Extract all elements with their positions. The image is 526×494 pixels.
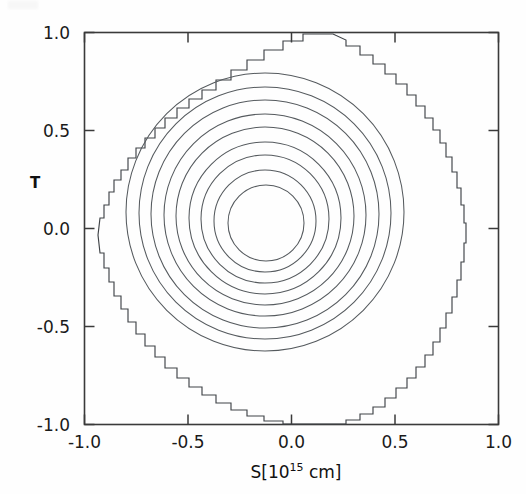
- contour-ring-6: [164, 114, 366, 316]
- y-tick-labels: 1.0 0.5 0.0 -0.5 -1.0: [37, 23, 70, 435]
- contour-ring-4: [189, 142, 341, 294]
- contour-lines: [98, 34, 466, 424]
- x-tick-label-0: -1.0: [68, 432, 101, 452]
- y-axis-ticks: [85, 33, 499, 425]
- x-tick-label-4: 1.0: [485, 432, 512, 452]
- contour-ring-5: [176, 127, 354, 305]
- contour-ring-1: [228, 185, 304, 261]
- x-tick-label-1: -0.5: [171, 432, 204, 452]
- contour-ring-3: [201, 155, 329, 283]
- y-tick-label-0: 1.0: [43, 23, 70, 43]
- plot-frame: [85, 33, 499, 425]
- x-axis-title-prefix: S[10: [250, 462, 289, 482]
- figure-page: 1.0 0.5 0.0 -0.5 -1.0 -1.0 -0.5 0.0 0.5 …: [0, 0, 526, 494]
- y-tick-label-3: -0.5: [37, 317, 70, 337]
- x-tick-label-3: 0.5: [381, 432, 408, 452]
- x-tick-label-2: 0.0: [278, 432, 305, 452]
- y-tick-label-2: 0.0: [43, 219, 70, 239]
- contour-plot: 1.0 0.5 0.0 -0.5 -1.0 -1.0 -0.5 0.0 0.5 …: [0, 0, 526, 494]
- contour-ring-8: [139, 87, 391, 339]
- y-tick-label-4: -1.0: [37, 415, 70, 435]
- x-axis-title: S[1015 cm]: [250, 461, 341, 482]
- contour-outer-jagged: [98, 34, 466, 424]
- x-axis-title-exponent: 15: [290, 461, 304, 474]
- contour-ring-9: [126, 73, 404, 351]
- x-axis-ticks: [85, 33, 499, 425]
- y-axis-title: T: [30, 174, 41, 192]
- y-tick-label-1: 0.5: [43, 121, 70, 141]
- x-tick-labels: -1.0 -0.5 0.0 0.5 1.0: [68, 432, 512, 452]
- x-axis-title-suffix: cm]: [304, 462, 342, 482]
